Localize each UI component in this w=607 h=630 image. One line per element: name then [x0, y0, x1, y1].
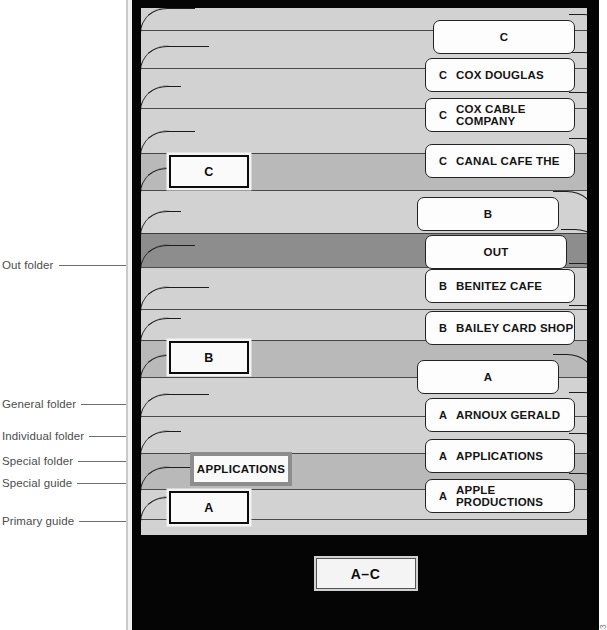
drawer-front-label-text: A–C	[351, 566, 381, 582]
guide-tab-label: APPLICATIONS	[197, 463, 285, 475]
callout-label: General folder	[2, 398, 76, 410]
folder-tab-name: A	[484, 371, 493, 383]
drawer-interior: CCCOX DOUGLASCCOX CABLE COMPANYCCANAL CA…	[141, 8, 587, 535]
guide-tab-applications[interactable]: APPLICATIONS	[193, 455, 289, 483]
drawer-front: A–C	[132, 538, 599, 630]
file-drawer: CCCOX DOUGLASCCOX CABLE COMPANYCCANAL CA…	[126, 0, 599, 630]
folder-tab[interactable]: CCANAL CAFE THE	[425, 144, 575, 178]
folder-edge-line	[141, 233, 587, 234]
folder-tab-name: CANAL CAFE THE	[456, 155, 560, 167]
folder-tab-code: A	[430, 490, 456, 502]
folder-tab-code: A	[430, 409, 456, 421]
folder-tab-name: B	[484, 208, 493, 220]
folder-tab[interactable]: B	[417, 197, 559, 231]
folder-tab-name: BENITEZ CAFE	[456, 280, 542, 292]
folder-tab[interactable]: A	[417, 360, 559, 394]
folder-tab[interactable]: OUT	[425, 235, 567, 269]
guide-tab-label: A	[204, 501, 213, 515]
folder-tab-code: C	[430, 155, 456, 167]
callout-label: Individual folder	[2, 430, 84, 442]
folder-tab-code: B	[430, 322, 456, 334]
folder-tab-name: APPLICATIONS	[456, 450, 543, 462]
folder-tab[interactable]: AARNOUX GERALD	[425, 398, 575, 432]
folder-tab[interactable]: C	[433, 20, 575, 54]
folder-tab-code: C	[430, 69, 456, 81]
folder-fold	[141, 287, 209, 313]
folder-tab-name: OUT	[484, 246, 509, 258]
folder-tab-name: COX CABLE COMPANY	[456, 103, 574, 127]
folder-tab-code: B	[430, 280, 456, 292]
folder-tab-code: C	[430, 109, 456, 121]
folder-tab[interactable]: AAPPLE PRODUCTIONS	[425, 479, 575, 513]
folder-tab[interactable]: CCOX CABLE COMPANY	[425, 98, 575, 132]
folder-tab[interactable]: CCOX DOUGLAS	[425, 58, 575, 92]
folder-tab[interactable]: AAPPLICATIONS	[425, 439, 575, 473]
folder-fold	[141, 394, 209, 420]
folder-tab-code: A	[430, 450, 456, 462]
guide-tab-b[interactable]: B	[169, 341, 249, 374]
callout-label: Primary guide	[2, 515, 74, 527]
guide-tab-c[interactable]: C	[169, 155, 249, 188]
diagram-canvas: Out folderGeneral folderIndividual folde…	[0, 0, 607, 630]
folder-tab[interactable]: BBAILEY CARD SHOP	[425, 311, 575, 345]
folder-tab-name: ARNOUX GERALD	[456, 409, 560, 421]
callout-label: Special guide	[2, 477, 72, 489]
callout-label: Out folder	[2, 259, 54, 271]
guide-tab-label: C	[204, 165, 213, 179]
guide-tab-a[interactable]: A	[169, 491, 249, 524]
folder-fold	[141, 46, 209, 72]
folder-tab-name: BAILEY CARD SHOP	[456, 322, 573, 334]
callout-label: Special folder	[2, 455, 73, 467]
folder-tab-name: APPLE PRODUCTIONS	[456, 484, 574, 508]
guide-tab-label: B	[204, 351, 213, 365]
copyright-notice: © Cengage Learning 2013	[598, 624, 607, 630]
drawer-front-label: A–C	[316, 558, 416, 589]
folder-tab[interactable]: BBENITEZ CAFE	[425, 269, 575, 303]
folder-tab-name: COX DOUGLAS	[456, 69, 544, 81]
folder-tab-name: C	[500, 31, 509, 43]
